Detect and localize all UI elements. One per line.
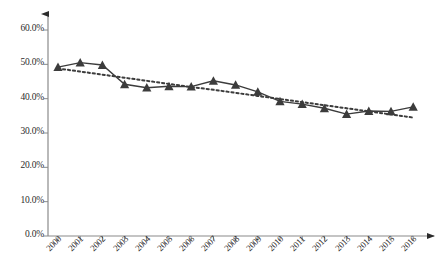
- chart-canvas: [0, 0, 445, 276]
- data-point-marker: [209, 76, 218, 85]
- line-chart: 0.0%10.0%20.0%30.0%40.0%50.0%60.0% 20002…: [0, 0, 445, 276]
- y-axis-tick-label: 20.0%: [0, 160, 44, 170]
- data-point-markers: [53, 58, 417, 118]
- data-point-marker: [409, 102, 418, 111]
- y-axis: [44, 14, 48, 236]
- trendline-series: [58, 68, 413, 117]
- y-axis-tick-label: 40.0%: [0, 92, 44, 102]
- y-axis-tick-label: 50.0%: [0, 57, 44, 67]
- y-axis-tick-label: 10.0%: [0, 195, 44, 205]
- y-axis-tick-label: 0.0%: [0, 229, 44, 239]
- y-axis-tick-label: 30.0%: [0, 126, 44, 136]
- y-axis-tick-label: 60.0%: [0, 23, 44, 33]
